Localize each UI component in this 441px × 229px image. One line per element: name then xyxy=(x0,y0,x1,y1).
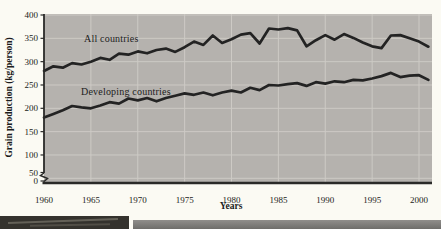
y-tick-label: 300 xyxy=(25,57,39,67)
gray-panel-decoration xyxy=(133,220,441,229)
y-tick-label: 400 xyxy=(25,10,39,20)
y-tick-label: 150 xyxy=(25,127,39,137)
y-tick-label: 0 xyxy=(34,176,39,186)
x-tick-label: 1975 xyxy=(176,195,195,205)
photo-highlight-streak xyxy=(30,223,110,226)
x-axis-title: Years xyxy=(201,201,261,211)
grain-production-chart: 4003503002502001501005001960196519701975… xyxy=(0,0,441,229)
series-label-all-countries: All countries xyxy=(84,33,139,44)
y-tick-label: 100 xyxy=(25,150,39,160)
x-tick-label: 1960 xyxy=(35,195,54,205)
x-tick-label: 1965 xyxy=(82,195,101,205)
y-axis-title: Grain production (kg/person) xyxy=(4,8,17,188)
y-tick-label: 350 xyxy=(25,33,39,43)
x-tick-label: 1990 xyxy=(316,195,335,205)
y-tick-label: 200 xyxy=(25,103,39,113)
x-tick-label: 2000 xyxy=(410,195,429,205)
photo-strip-decoration xyxy=(0,216,129,229)
chart-canvas: 4003503002502001501005001960196519701975… xyxy=(0,0,441,217)
x-tick-label: 1985 xyxy=(269,195,288,205)
x-tick-label: 1970 xyxy=(129,195,148,205)
y-tick-label: 250 xyxy=(25,80,39,90)
series-label-developing-countries: Developing countries xyxy=(81,86,171,97)
x-tick-label: 1995 xyxy=(363,195,382,205)
